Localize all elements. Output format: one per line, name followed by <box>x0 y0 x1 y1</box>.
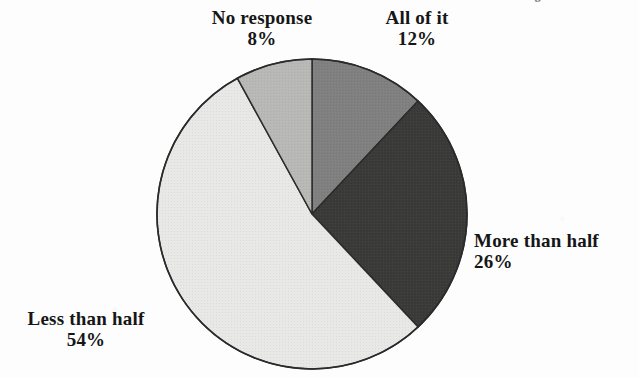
slice-label-no-response: No response 8% <box>187 7 337 50</box>
pie-slice-group <box>157 59 467 369</box>
slice-label-less-than-half-percent: 54% <box>2 329 170 350</box>
slice-label-less-than-half-name: Less than half <box>28 308 145 329</box>
slice-label-all-of-it-name: All of it <box>385 7 448 28</box>
cutoff-title-remnant: g <box>534 0 556 2</box>
slice-label-more-than-half: More than half 26% <box>474 230 634 273</box>
chart-page: No response 8% All of it 12% More than h… <box>0 0 639 377</box>
slice-label-no-response-percent: 8% <box>187 28 337 49</box>
slice-label-more-than-half-name: More than half <box>474 230 599 251</box>
slice-label-no-response-name: No response <box>212 7 313 28</box>
slice-label-all-of-it: All of it 12% <box>358 7 476 50</box>
slice-label-more-than-half-percent: 26% <box>474 251 634 272</box>
slice-label-all-of-it-percent: 12% <box>358 28 476 49</box>
slice-label-less-than-half: Less than half 54% <box>2 308 170 351</box>
